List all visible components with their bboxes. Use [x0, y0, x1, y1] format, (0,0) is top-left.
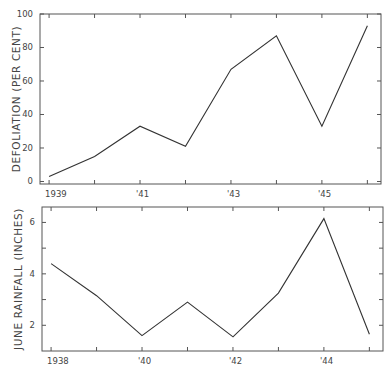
x-tick-label: 1938 — [47, 356, 69, 366]
plot-frame — [42, 207, 383, 351]
y-tick-label: 0 — [28, 176, 33, 186]
x-tick-label: '42 — [229, 356, 242, 366]
y-axis-title: JUNE RAINFALL (INCHES) — [12, 208, 24, 351]
x-tick-label: '40 — [138, 356, 151, 366]
y-tick-label: 100 — [17, 9, 33, 19]
rainfall-panel: 1938'40'42'44246JUNE RAINFALL (INCHES) — [12, 207, 383, 366]
x-tick-label: '44 — [320, 356, 333, 366]
data-line — [51, 219, 369, 337]
x-tick-label: 1939 — [45, 189, 67, 199]
y-tick-label: 80 — [22, 42, 33, 52]
x-tick-label: '41 — [136, 189, 149, 199]
y-tick-label: 4 — [30, 269, 35, 279]
y-tick-label: 40 — [22, 109, 33, 119]
y-tick-label: 60 — [22, 76, 33, 86]
defoliation-panel: 1939'41'43'45020406080100DEFOLIATION (PE… — [10, 9, 381, 199]
y-tick-label: 6 — [30, 217, 35, 227]
y-tick-label: 20 — [22, 143, 33, 153]
x-tick-label: '45 — [318, 189, 331, 199]
y-axis-title: DEFOLIATION (PER CENT) — [10, 26, 22, 173]
data-line — [49, 26, 367, 177]
y-tick-label: 2 — [30, 320, 35, 330]
chart-figure: 1939'41'43'45020406080100DEFOLIATION (PE… — [0, 0, 392, 373]
x-tick-label: '43 — [227, 189, 240, 199]
